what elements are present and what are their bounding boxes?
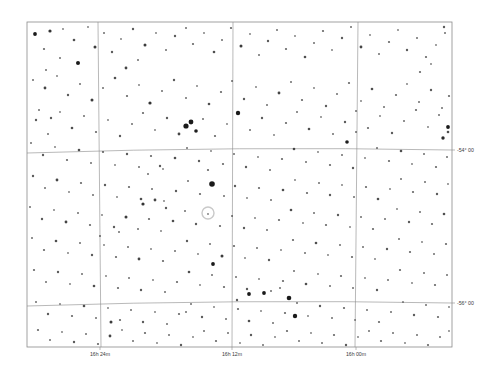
star <box>304 56 307 59</box>
star <box>349 226 351 228</box>
star <box>272 322 274 324</box>
star <box>29 206 31 208</box>
star <box>54 146 56 148</box>
star <box>243 227 245 229</box>
star <box>130 309 132 311</box>
star <box>189 120 194 125</box>
star <box>284 312 286 314</box>
star <box>57 271 59 273</box>
star <box>55 240 58 243</box>
star <box>165 207 167 209</box>
star <box>423 272 425 274</box>
star <box>192 43 194 45</box>
star <box>185 97 187 99</box>
star <box>296 111 298 113</box>
star <box>159 165 161 167</box>
star <box>294 35 296 37</box>
star <box>281 158 283 160</box>
star <box>378 53 380 55</box>
star <box>45 281 47 283</box>
star <box>392 332 394 334</box>
star <box>386 248 388 250</box>
star <box>236 299 238 301</box>
star <box>290 209 293 212</box>
star <box>278 92 281 95</box>
star <box>237 308 239 310</box>
star <box>207 213 209 215</box>
star <box>377 198 380 201</box>
star <box>235 276 237 278</box>
star <box>317 273 319 275</box>
star <box>111 51 113 53</box>
star <box>116 196 118 198</box>
star <box>337 214 339 216</box>
star <box>214 135 216 137</box>
star <box>132 28 134 30</box>
star <box>372 228 374 230</box>
star <box>369 34 371 36</box>
star <box>336 93 338 95</box>
star <box>196 85 198 87</box>
ra-gridline-2 <box>355 22 358 347</box>
star <box>427 344 429 346</box>
star <box>67 94 69 96</box>
star <box>421 241 423 243</box>
star <box>395 94 397 96</box>
star <box>220 91 222 93</box>
star <box>43 48 45 50</box>
star <box>351 256 353 258</box>
star <box>367 127 369 129</box>
star <box>32 79 34 81</box>
star <box>202 118 204 120</box>
star <box>325 105 327 107</box>
star <box>198 160 200 162</box>
star <box>222 163 224 165</box>
sky-plot: 16h 24m16h 12m16h 00m-54° 00-56° 00 <box>0 0 479 372</box>
ra-tick-label: 16h 24m <box>90 351 110 357</box>
star <box>168 334 170 336</box>
star <box>435 166 437 168</box>
star <box>47 313 49 315</box>
star <box>125 216 128 219</box>
star <box>203 330 205 332</box>
star <box>250 334 252 336</box>
star <box>236 111 240 115</box>
star <box>162 168 164 170</box>
star <box>389 188 391 190</box>
star <box>53 209 55 211</box>
star <box>156 342 158 344</box>
star <box>66 159 68 161</box>
dec-tick-label: -54° 00 <box>457 147 474 153</box>
star <box>131 123 133 125</box>
star <box>294 179 296 181</box>
star <box>44 87 47 90</box>
star <box>305 161 307 163</box>
star <box>174 250 176 252</box>
star <box>301 99 303 101</box>
star <box>163 200 165 202</box>
star <box>121 329 123 331</box>
star <box>138 258 141 261</box>
star <box>293 314 297 318</box>
star <box>221 255 224 258</box>
star <box>406 49 408 51</box>
star <box>257 156 259 158</box>
star <box>32 175 34 177</box>
star <box>148 218 150 220</box>
star <box>199 284 201 286</box>
star <box>83 115 85 117</box>
star <box>354 319 356 321</box>
star <box>147 173 149 175</box>
star <box>243 98 245 100</box>
star <box>280 249 282 251</box>
star <box>77 212 79 214</box>
star <box>211 274 213 276</box>
star <box>279 287 281 289</box>
star <box>59 303 61 305</box>
star <box>388 41 390 43</box>
star <box>92 194 94 196</box>
star <box>244 257 246 259</box>
star <box>209 243 211 245</box>
star <box>79 242 81 244</box>
star <box>333 334 335 336</box>
